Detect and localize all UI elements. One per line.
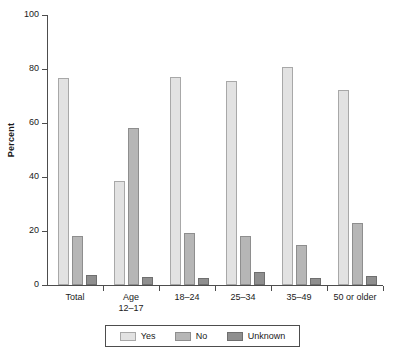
bar-no-1 — [72, 236, 83, 285]
bar-unknown-1 — [86, 275, 97, 285]
legend-swatch-icon — [120, 332, 136, 341]
x-tick-label: Age 12–17 — [103, 292, 159, 314]
bar-group — [103, 15, 159, 285]
bar-yes-2 — [114, 181, 125, 285]
x-tick-mark — [103, 286, 104, 291]
x-tick-mark — [327, 286, 328, 291]
x-tick-label: 35–49 — [271, 292, 327, 303]
x-tick-label: 25–34 — [215, 292, 271, 303]
bar-no-6 — [352, 223, 363, 285]
y-tick-label: 20 — [13, 225, 39, 235]
y-tick-label: 0 — [13, 279, 39, 289]
x-tick-mark — [215, 286, 216, 291]
bar-unknown-4 — [254, 272, 265, 285]
bar-group — [159, 15, 215, 285]
x-tick-label: Total — [47, 292, 103, 303]
bar-yes-1 — [58, 78, 69, 285]
legend-label: Unknown — [248, 331, 286, 341]
bar-no-4 — [240, 236, 251, 285]
legend-item-unknown[interactable]: Unknown — [227, 331, 286, 341]
y-tick-mark — [42, 285, 47, 286]
bar-yes-5 — [282, 67, 293, 285]
bar-group — [327, 15, 383, 285]
chart-figure: Percent 020406080100 TotalAge 12–1718–24… — [0, 0, 404, 356]
bar-group — [271, 15, 327, 285]
bar-unknown-3 — [198, 278, 209, 285]
plot-area: 020406080100 — [47, 15, 383, 285]
y-axis-title: Percent — [6, 105, 16, 175]
legend-label: Yes — [141, 331, 156, 341]
bar-yes-4 — [226, 81, 237, 285]
bar-no-2 — [128, 128, 139, 285]
bar-unknown-2 — [142, 277, 153, 285]
legend-swatch-icon — [175, 332, 191, 341]
bar-no-3 — [184, 233, 195, 285]
bar-unknown-5 — [310, 278, 321, 285]
bar-group — [47, 15, 103, 285]
legend-swatch-icon — [227, 332, 243, 341]
chart-legend: YesNoUnknown — [105, 325, 300, 347]
x-tick-label: 18–24 — [159, 292, 215, 303]
y-tick-label: 40 — [13, 171, 39, 181]
legend-item-no[interactable]: No — [175, 331, 208, 341]
bar-group — [215, 15, 271, 285]
y-tick-label: 100 — [13, 9, 39, 19]
y-tick-label: 80 — [13, 63, 39, 73]
x-tick-label: 50 or older — [327, 292, 383, 303]
bar-yes-6 — [338, 90, 349, 285]
x-tick-mark — [271, 286, 272, 291]
legend-item-yes[interactable]: Yes — [120, 331, 156, 341]
y-tick-label: 60 — [13, 117, 39, 127]
bar-yes-3 — [170, 77, 181, 285]
x-tick-mark — [159, 286, 160, 291]
x-tick-mark — [383, 286, 384, 291]
bar-no-5 — [296, 245, 307, 285]
bar-unknown-6 — [366, 276, 377, 285]
legend-label: No — [196, 331, 208, 341]
